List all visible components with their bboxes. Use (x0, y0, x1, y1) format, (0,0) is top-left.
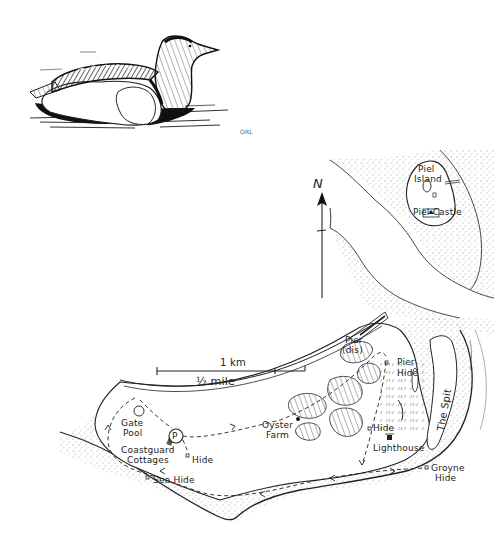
artist-initials: ORL (240, 126, 253, 137)
label-pier-hide-1: Pier (397, 357, 415, 368)
map-page: ORL N Piel Island Piel Castle 1 km ½ mil… (0, 0, 494, 544)
eider-duck-illustration (0, 0, 494, 544)
label-lighthouse: Lighthouse (373, 443, 425, 454)
label-pier-hide-2: Hide (397, 368, 418, 379)
label-gate-pool-2: Pool (123, 428, 142, 439)
label-piel-island-2: Island (414, 174, 442, 185)
parking-label: P (172, 431, 178, 442)
north-label: N (313, 178, 323, 189)
label-piel-castle: Piel Castle (413, 207, 462, 218)
label-groyne-hide-2: Hide (435, 473, 456, 484)
map-drawing (60, 150, 494, 522)
gate-pool-icon (134, 406, 144, 416)
label-hide-central: Hide (373, 423, 394, 434)
scale-km-label: 1 km (220, 357, 246, 368)
scale-mile-label: ½ mile (196, 376, 235, 387)
label-hide-west: Hide (192, 455, 213, 466)
north-arrow-icon (317, 192, 331, 298)
label-coastguard-2: Cottages (127, 455, 169, 466)
label-oyster-farm-2: Farm (266, 430, 289, 441)
label-pier-2: (dis) (342, 345, 363, 356)
label-sea-hide: Sea Hide (153, 475, 195, 486)
